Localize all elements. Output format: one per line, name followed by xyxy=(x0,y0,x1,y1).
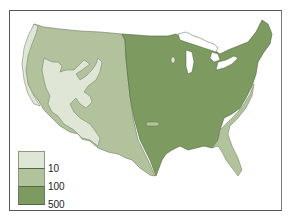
legend-label-500: 500 xyxy=(48,200,65,210)
legend-label-10: 10 xyxy=(48,164,59,174)
legend-label-100: 100 xyxy=(48,182,65,192)
legend xyxy=(18,151,45,205)
legend-swatch-medium xyxy=(18,169,45,187)
small-patch-south xyxy=(146,122,159,126)
legend-swatch-low xyxy=(18,151,45,169)
legend-swatch-high xyxy=(18,187,45,205)
small-lake xyxy=(171,57,175,63)
